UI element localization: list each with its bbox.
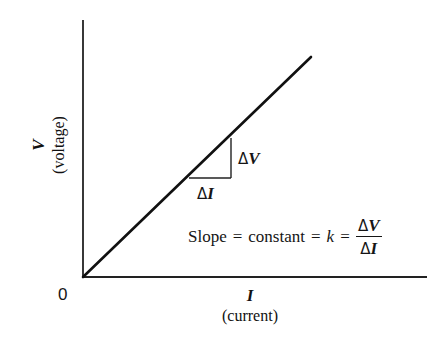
formula-equals: = [311,227,321,247]
formula-k: k [327,227,335,247]
numerator-var: V [368,216,379,235]
x-axis-symbol: I [200,286,300,306]
fraction-denominator: ΔI [358,237,379,257]
delta-v-var: V [248,149,259,168]
formula-constant-word: constant [248,227,305,247]
delta-symbol: Δ [238,150,248,168]
fraction-numerator: ΔV [356,217,382,236]
formula-equals: = [340,227,350,247]
origin-label: 0 [58,286,67,303]
denominator-var: I [371,239,378,258]
y-axis-word: (voltage) [50,116,69,174]
y-axis-symbol: V [29,116,49,174]
y-axis-label: V (voltage) [24,100,74,190]
delta-i-var: I [207,184,214,203]
delta-v-label: ΔV [238,150,260,167]
delta-symbol: Δ [358,217,368,235]
formula-slope-word: Slope [188,227,227,247]
formula-equals: = [233,227,243,247]
x-axis-label: I (current) [200,286,300,326]
delta-symbol: Δ [360,240,370,258]
x-axis-word: (current) [200,306,300,325]
delta-i-label: ΔI [197,185,214,202]
slope-formula: Slope = constant = k = ΔV ΔI [188,215,382,259]
formula-fraction: ΔV ΔI [356,217,382,258]
delta-symbol: Δ [197,185,207,203]
